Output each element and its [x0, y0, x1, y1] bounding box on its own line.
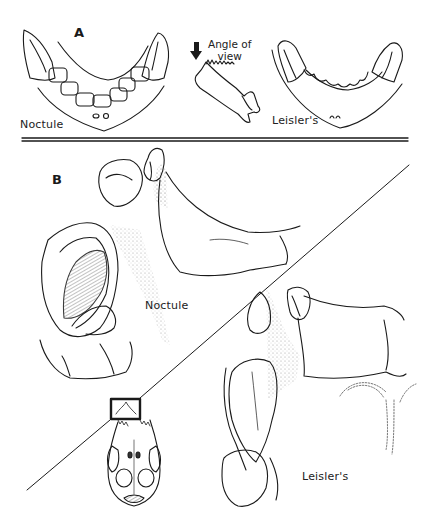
label-noctule-closeup: Noctule — [145, 299, 189, 312]
inset-highlight-box — [111, 399, 140, 419]
bat-dentition-figure: A Noctule Angle of view Leisler's B Noct… — [0, 0, 424, 520]
illustration-canvas — [0, 0, 424, 520]
skull-inset-drawing — [108, 420, 161, 506]
label-angle-of-view: Angle of view — [208, 38, 251, 62]
side-jaw-drawing — [195, 60, 259, 122]
panel-letter-b: B — [52, 172, 62, 187]
panel-letter-a: A — [74, 25, 84, 40]
panel-separator — [22, 138, 408, 141]
label-leislers-jaw: Leisler's — [272, 114, 318, 127]
angle-caption-line1: Angle of — [208, 38, 251, 50]
label-leislers-closeup: Leisler's — [302, 470, 348, 483]
noctule-closeup-drawing — [40, 148, 300, 378]
diagonal-guide-line — [27, 165, 409, 490]
angle-caption-line2: view — [218, 50, 242, 62]
noctule-jaw-drawing — [23, 30, 168, 131]
down-arrow-icon — [190, 42, 202, 60]
label-noctule-jaw: Noctule — [20, 118, 64, 131]
